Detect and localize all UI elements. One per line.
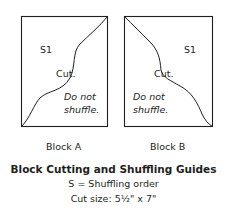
caption-title: Block Cutting and Shuffling Guides <box>0 163 227 175</box>
block-b-name: Block B <box>150 141 185 152</box>
block-b-cut-label: Cut. <box>154 68 173 79</box>
block-a-note-line1: Do not <box>64 91 96 103</box>
block-a-cut-label: Cut. <box>56 68 75 79</box>
caption-cut-size: Cut size: 5½" x 7" <box>0 193 227 204</box>
block-diagram <box>0 0 227 208</box>
caption-legend: S = Shuffling order <box>0 178 227 189</box>
block-a-order-label: S1 <box>40 44 52 55</box>
block-b-order-label: S1 <box>184 44 196 55</box>
block-a-name: Block A <box>46 141 81 152</box>
block-a-note-line2: shuffle. <box>64 104 99 116</box>
block-b-note-line2: shuffle. <box>133 104 168 116</box>
block-b-note-line1: Do not <box>133 91 165 103</box>
